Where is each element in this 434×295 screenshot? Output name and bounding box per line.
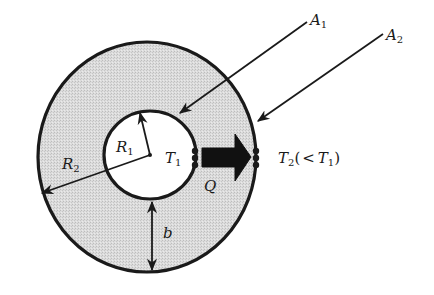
t1-junction-marker: [192, 148, 198, 168]
t2-junction-marker: [253, 148, 259, 168]
label-b: b: [163, 224, 173, 242]
label-a1: A1: [308, 11, 327, 30]
cylinder-heat-diagram: A1 A2 R1 R2 T1 T2(<T1) Q b: [0, 0, 434, 295]
label-t2: T2(<T1): [278, 149, 340, 168]
label-q: Q: [204, 177, 216, 195]
diagram-canvas: A1 A2 R1 R2 T1 T2(<T1) Q b: [0, 0, 434, 295]
a2-leader-arrow: [258, 34, 383, 121]
label-a2: A2: [384, 26, 403, 45]
